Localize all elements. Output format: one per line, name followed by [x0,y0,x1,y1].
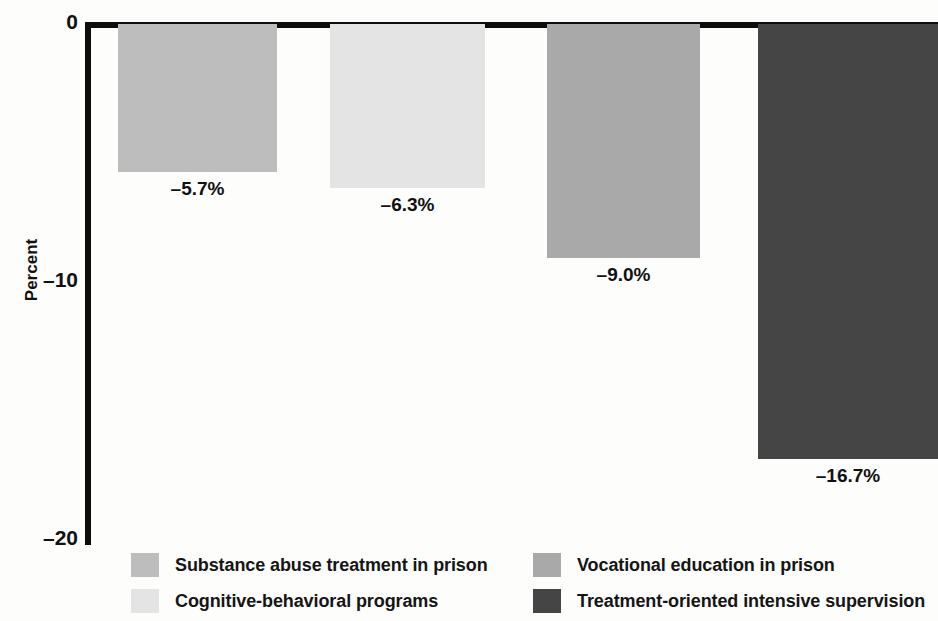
legend-label-1: Cognitive-behavioral programs [175,591,438,612]
bar-chart-figure: Percent 0 –10 –20 –5.7% –6.3% –9.0% –16.… [0,0,938,621]
legend-item-vocational-education: Vocational education in prison [533,552,835,578]
plot-area: –5.7% –6.3% –9.0% –16.7% [89,24,938,545]
legend-swatch-icon-0 [131,553,159,577]
bar-vocational-education [547,24,700,258]
y-axis-title: Percent [22,220,42,320]
legend-item-substance-abuse-treatment: Substance abuse treatment in prison [131,552,488,578]
y-tick-label-minus10: –10 [43,268,78,292]
legend-item-treatment-oriented-supervision: Treatment-oriented intensive supervision [533,588,925,614]
legend-swatch-icon-1 [131,589,159,613]
bar-cognitive-behavioral-programs [330,24,485,188]
legend-label-2: Vocational education in prison [577,555,835,576]
bar-value-label-3: –16.7% [758,465,938,487]
legend-swatch-icon-3 [533,589,561,613]
y-tick-label-minus20: –20 [43,526,78,550]
legend-item-cognitive-behavioral-programs: Cognitive-behavioral programs [131,588,438,614]
bar-value-label-1: –6.3% [330,194,485,216]
legend-swatch-icon-2 [533,553,561,577]
legend-label-0: Substance abuse treatment in prison [175,555,488,576]
bar-treatment-oriented-supervision [758,24,938,459]
legend: Substance abuse treatment in prison Cogn… [131,552,931,618]
bar-substance-abuse-treatment [118,24,277,172]
legend-label-3: Treatment-oriented intensive supervision [577,591,925,612]
bar-value-label-2: –9.0% [547,264,700,286]
y-tick-label-0: 0 [66,10,78,34]
bar-value-label-0: –5.7% [118,178,277,200]
